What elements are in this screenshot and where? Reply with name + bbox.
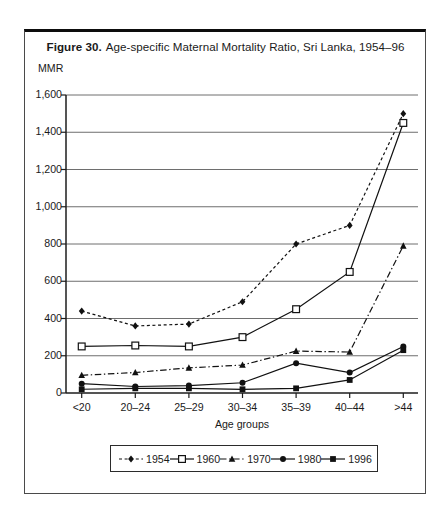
legend-item-1980: 1980 — [271, 453, 322, 465]
legend-square-open-icon — [170, 453, 194, 465]
y-tick-label: 800 — [22, 237, 62, 249]
x-tick-label: 40–44 — [322, 401, 378, 413]
legend-label: 1954 — [146, 453, 170, 465]
x-tick-label: 30–34 — [215, 401, 271, 413]
x-tick-label: >44 — [375, 401, 431, 413]
y-tick-label: 1,200 — [22, 163, 62, 175]
legend-label: 1980 — [298, 453, 322, 465]
y-tick-label: 1,600 — [22, 88, 62, 100]
figure-canvas: Figure 30.Age-specific Maternal Mortalit… — [0, 0, 447, 518]
y-tick-label: 400 — [22, 312, 62, 324]
legend-circle-filled-icon — [271, 453, 295, 465]
legend-item-1960: 1960 — [170, 453, 221, 465]
x-tick-label: <20 — [54, 401, 110, 413]
diamond-marker-icon — [128, 455, 134, 462]
legend-item-1996: 1996 — [321, 453, 372, 465]
legend-label: 1960 — [197, 453, 221, 465]
legend-label: 1996 — [348, 453, 372, 465]
figure-number: Figure 30. — [47, 40, 102, 53]
legend-item-1970: 1970 — [220, 453, 271, 465]
figure-caption: Age-specific Maternal Mortality Ratio, S… — [106, 40, 405, 53]
legend-square-filled-icon — [321, 453, 345, 465]
y-tick-label: 600 — [22, 274, 62, 286]
y-tick-label: 200 — [22, 349, 62, 361]
y-tick-label: 0 — [22, 386, 62, 398]
x-tick-label: 35–39 — [268, 401, 324, 413]
legend: 19541960197019801996 — [110, 445, 378, 472]
open-square-marker-icon — [178, 455, 185, 462]
square-marker-icon — [330, 456, 336, 462]
y-tick-label: 1,000 — [22, 200, 62, 212]
legend-triangle-filled-icon — [220, 453, 244, 465]
y-axis-title: MMR — [38, 62, 63, 74]
x-axis-title: Age groups — [172, 418, 312, 430]
x-tick-label: 25–29 — [161, 401, 217, 413]
figure-title: Figure 30.Age-specific Maternal Mortalit… — [26, 40, 425, 53]
y-tick-label: 1,400 — [22, 125, 62, 137]
legend-item-1954: 1954 — [119, 453, 170, 465]
x-tick-label: 20–24 — [107, 401, 163, 413]
legend-diamond-filled-icon — [119, 453, 143, 465]
circle-marker-icon — [280, 456, 286, 462]
legend-label: 1970 — [247, 453, 271, 465]
